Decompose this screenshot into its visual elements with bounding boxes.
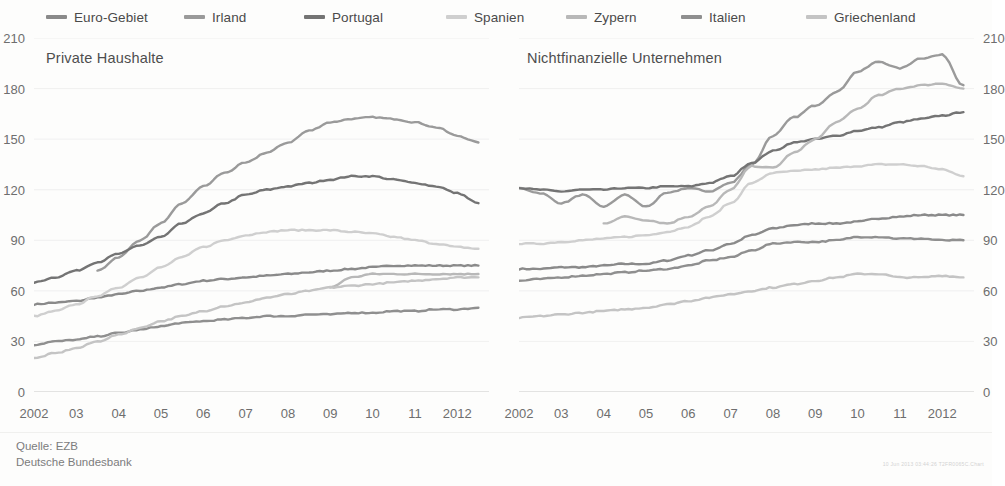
x-axis-tick-label: 05 bbox=[639, 406, 653, 421]
series-line-irland bbox=[519, 54, 963, 207]
legend-item-zypern[interactable]: Zypern bbox=[566, 10, 637, 25]
x-axis-tick-label: 04 bbox=[111, 406, 125, 421]
legend-item-euro-gebiet[interactable]: Euro-Gebiet bbox=[46, 10, 148, 25]
x-axis-tick-label: 06 bbox=[681, 406, 695, 421]
x-axis-tick-label: 05 bbox=[154, 406, 168, 421]
plot-area-right: 0306090120150180210 bbox=[519, 38, 974, 392]
x-axis-ticks-left: 20020304050607080910112012 bbox=[34, 406, 489, 426]
plot-svg bbox=[519, 38, 974, 392]
x-axis-tick-label: 07 bbox=[238, 406, 252, 421]
panel-nonfinancial-corporations: Nichtfinanzielle Unternehmen 03060901201… bbox=[519, 28, 974, 400]
y-axis-tick-label: 30 bbox=[983, 335, 997, 348]
legend-item-italien[interactable]: Italien bbox=[681, 10, 746, 25]
legend-label: Griechenland bbox=[834, 10, 916, 25]
x-axis-tick-label: 06 bbox=[196, 406, 210, 421]
y-axis-tick-label: 150 bbox=[3, 133, 25, 146]
legend-swatch-icon bbox=[184, 15, 205, 19]
series-line-zypern bbox=[604, 84, 964, 224]
legend-item-spanien[interactable]: Spanien bbox=[446, 10, 524, 25]
y-axis-tick-label: 210 bbox=[3, 32, 25, 45]
y-axis-tick-label: 120 bbox=[983, 184, 1005, 197]
x-axis-tick-label: 2002 bbox=[505, 406, 534, 421]
y-axis-tick-label: 0 bbox=[983, 386, 990, 399]
legend-label: Spanien bbox=[474, 10, 524, 25]
x-axis-tick-label: 09 bbox=[323, 406, 337, 421]
y-axis-tick-label: 180 bbox=[983, 83, 1005, 96]
legend-swatch-icon bbox=[446, 15, 467, 19]
x-axis-tick-label: 08 bbox=[766, 406, 780, 421]
x-axis-tick-label: 07 bbox=[723, 406, 737, 421]
y-axis-tick-label: 90 bbox=[983, 234, 997, 247]
x-axis-tick-label: 10 bbox=[365, 406, 379, 421]
x-axis-tick-label: 04 bbox=[596, 406, 610, 421]
y-axis-tick-label: 0 bbox=[18, 386, 25, 399]
legend-swatch-icon bbox=[46, 15, 67, 19]
x-axis-tick-label: 10 bbox=[850, 406, 864, 421]
y-axis-tick-label: 60 bbox=[11, 285, 25, 298]
legend-swatch-icon bbox=[681, 15, 702, 19]
x-axis-tick-label: 2012 bbox=[928, 406, 957, 421]
publisher-note: Deutsche Bundesbank bbox=[16, 454, 132, 470]
series-line-italien bbox=[34, 308, 478, 346]
x-axis-tick-label: 2002 bbox=[20, 406, 49, 421]
x-axis-tick-label: 03 bbox=[69, 406, 83, 421]
chart-legend: Euro-GebietIrlandPortugalSpanienZypernIt… bbox=[36, 6, 982, 28]
x-axis-ticks-right: 20020304050607080910112012 bbox=[519, 406, 974, 426]
plot-area-left: 0306090120150180210 bbox=[34, 38, 489, 392]
x-axis-tick-label: 11 bbox=[893, 406, 907, 421]
legend-label: Italien bbox=[709, 10, 746, 25]
legend-label: Zypern bbox=[594, 10, 637, 25]
x-axis-tick-label: 2012 bbox=[443, 406, 472, 421]
legend-swatch-icon bbox=[304, 15, 325, 19]
legend-label: Euro-Gebiet bbox=[74, 10, 148, 25]
footer: Quelle: EZB Deutsche Bundesbank bbox=[16, 438, 132, 470]
y-axis-tick-label: 150 bbox=[983, 133, 1005, 146]
legend-item-irland[interactable]: Irland bbox=[184, 10, 246, 25]
legend-swatch-icon bbox=[566, 15, 587, 19]
y-axis-tick-label: 180 bbox=[3, 83, 25, 96]
y-axis-tick-label: 120 bbox=[3, 184, 25, 197]
footer-divider bbox=[0, 432, 992, 433]
y-axis-tick-label: 30 bbox=[11, 335, 25, 348]
legend-swatch-icon bbox=[806, 15, 827, 19]
plot-svg bbox=[34, 38, 489, 392]
series-line-euro-gebiet bbox=[519, 214, 963, 269]
source-note: Quelle: EZB bbox=[16, 438, 132, 454]
legend-item-griechenland[interactable]: Griechenland bbox=[806, 10, 916, 25]
y-axis-tick-label: 210 bbox=[983, 32, 1005, 45]
chart-id-stamp: 10 Jun 2013 03:44:26 T2FR0065C.Chart bbox=[883, 461, 984, 467]
x-axis-tick-label: 11 bbox=[408, 406, 422, 421]
x-axis-tick-label: 03 bbox=[554, 406, 568, 421]
y-axis-tick-label: 60 bbox=[983, 285, 997, 298]
series-line-italien bbox=[519, 237, 963, 281]
x-axis-tick-label: 08 bbox=[281, 406, 295, 421]
panel-private-households: Private Haushalte 0306090120150180210 20… bbox=[34, 28, 489, 400]
y-axis-tick-label: 90 bbox=[11, 234, 25, 247]
legend-label: Portugal bbox=[332, 10, 383, 25]
x-axis-tick-label: 09 bbox=[808, 406, 822, 421]
legend-item-portugal[interactable]: Portugal bbox=[304, 10, 383, 25]
legend-label: Irland bbox=[212, 10, 246, 25]
series-line-griechenland bbox=[519, 273, 963, 318]
series-line-irland bbox=[97, 117, 478, 271]
